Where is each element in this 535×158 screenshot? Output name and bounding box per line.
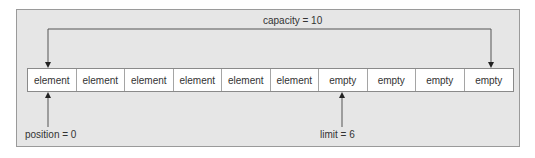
buffer-cell: empty <box>416 69 465 91</box>
position-label: position = 0 <box>25 129 76 140</box>
buffer-cell: element <box>28 69 77 91</box>
buffer-cell: element <box>222 69 271 91</box>
buffer-cell: empty <box>465 69 514 91</box>
buffer-cell: element <box>125 69 174 91</box>
buffer-cell: element <box>174 69 223 91</box>
buffer-cell: element <box>77 69 126 91</box>
capacity-bracket <box>48 29 491 66</box>
buffer-cells: element element element element element … <box>27 68 514 92</box>
limit-label: limit = 6 <box>320 129 355 140</box>
buffer-cell: empty <box>319 69 368 91</box>
capacity-label: capacity = 10 <box>263 15 322 26</box>
position-arrowhead <box>45 92 51 98</box>
buffer-cell: element <box>271 69 320 91</box>
limit-arrowhead <box>339 92 345 98</box>
buffer-cell: empty <box>368 69 417 91</box>
